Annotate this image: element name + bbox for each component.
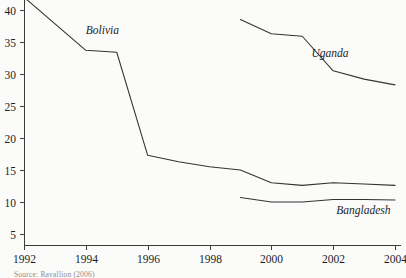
series-lines [24, 0, 395, 202]
series-line-bolivia [24, 0, 395, 185]
y-axis-tick-label: 20 [5, 133, 17, 145]
x-axis-tick-label: 2000 [260, 253, 283, 265]
y-axis-tick-label: 15 [5, 165, 17, 177]
y-axis-tick-label: 35 [5, 37, 17, 49]
source-note: Source: Ravallion (2006) [14, 270, 95, 278]
series-label-uganda: Uganda [312, 47, 349, 60]
chart-figure: 510152025303540 199219941996199820002002… [0, 0, 406, 278]
y-axis-tick-label: 10 [5, 197, 17, 209]
y-axis-tick-label: 5 [10, 229, 16, 241]
x-tick-labels: 1992199419961998200020022004 [13, 253, 406, 265]
x-axis-tick-label: 2004 [384, 253, 406, 265]
x-axis-tick-label: 1996 [137, 253, 160, 265]
series-labels: BoliviaUgandaBangladesh [86, 24, 391, 216]
x-axis-tick-label: 1994 [75, 253, 98, 265]
y-tick-labels: 510152025303540 [5, 5, 17, 241]
x-axis-tick-label: 2002 [322, 253, 345, 265]
series-label-bangladesh: Bangladesh [336, 204, 391, 217]
x-axis-tick-label: 1998 [199, 253, 222, 265]
y-axis-tick-label: 25 [5, 101, 17, 113]
y-tick-marks [20, 11, 24, 235]
series-line-bangladesh [240, 198, 395, 202]
y-axis-tick-label: 40 [5, 5, 17, 17]
line-chart-plot: 510152025303540 199219941996199820002002… [0, 0, 406, 278]
series-label-bolivia: Bolivia [86, 24, 119, 36]
y-axis-tick-label: 30 [5, 69, 17, 81]
x-axis-tick-label: 1992 [13, 253, 36, 265]
